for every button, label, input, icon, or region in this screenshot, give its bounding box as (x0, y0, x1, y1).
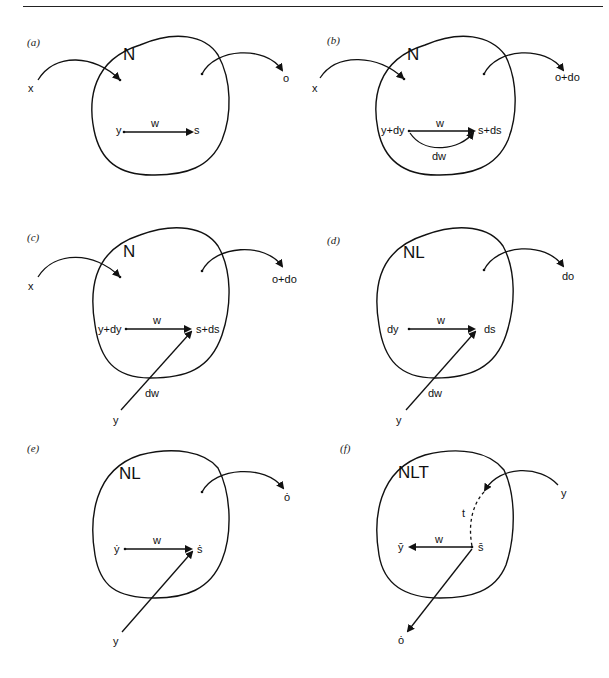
network-name: NL (119, 464, 141, 483)
panel-label: (a) (27, 36, 40, 49)
panel-label: (b) (327, 34, 340, 47)
input-arrow (485, 471, 558, 490)
panel-a: (a) N x o y s w (27, 36, 289, 175)
output-arrow (408, 549, 472, 631)
transpose-path (471, 492, 485, 546)
pre-node-label: dy (387, 323, 399, 335)
post-node-label: ṡ (197, 543, 203, 555)
weight-delta-label: dw (145, 387, 159, 399)
network-boundary (93, 228, 229, 378)
output-label: ȯ (398, 634, 404, 646)
weight-label: w (152, 314, 161, 326)
network-boundary (377, 228, 513, 378)
network-boundary (92, 36, 229, 175)
input-arrow (38, 257, 119, 277)
post-node-label: s̄ (478, 541, 484, 553)
panel-b: (b) N x o+do y+dy s+ds w dw (312, 34, 580, 175)
transpose-label: t (462, 507, 465, 519)
network-name: N (123, 45, 135, 64)
post-node-label: s (194, 124, 200, 136)
input-label: x (312, 82, 318, 94)
panel-e: (e) NL ȯ ẏ ṡ w y (27, 442, 290, 647)
diagram-canvas: (a) N x o y s w (b) N x o+do y+dy s+ds w… (0, 0, 609, 678)
panel-label: (f) (340, 442, 351, 455)
weight-label: w (152, 534, 161, 546)
weight-label: w (434, 533, 443, 545)
output-label: o+do (272, 273, 297, 285)
external-input-arrow (122, 552, 192, 632)
output-label: do (562, 270, 574, 282)
panel-c: (c) N x o+do y+dy s+ds w dw y (27, 228, 297, 426)
output-label: o+do (555, 71, 580, 83)
pre-node-label: y (116, 124, 122, 136)
input-label: y (561, 487, 567, 499)
panel-d: (d) NL do dy ds w dw y (327, 228, 574, 426)
post-node-label: s+ds (478, 124, 502, 136)
output-label: o (283, 72, 289, 84)
input-label: x (28, 82, 34, 94)
output-arrow (484, 249, 563, 270)
output-arrow (202, 250, 282, 271)
input-label: x (28, 280, 34, 292)
network-name: NLT (398, 463, 429, 482)
output-label: ȯ (284, 491, 290, 503)
pre-node-label: ẏ (114, 543, 120, 555)
post-node-label: s+ds (196, 323, 220, 335)
external-input-label: y (396, 414, 402, 426)
panel-label: (c) (27, 231, 40, 244)
pre-node-label: y+dy (98, 323, 122, 335)
network-name: N (123, 242, 135, 261)
weight-delta-arrow (410, 133, 473, 148)
external-input-label: y (113, 635, 119, 647)
network-name: NL (403, 243, 425, 262)
pre-node-label: ȳ (398, 541, 404, 553)
network-boundary (93, 451, 229, 598)
output-arrow (484, 53, 563, 74)
output-arrow (202, 472, 283, 492)
panel-f: (f) NLT y t ȳ s̄ w ȯ (340, 442, 567, 646)
weight-label: w (150, 117, 159, 129)
post-node-label: ds (484, 323, 496, 335)
input-arrow (38, 60, 119, 80)
panel-label: (e) (27, 442, 40, 455)
weight-label: w (436, 314, 445, 326)
output-arrow (202, 53, 282, 74)
weight-delta-label: dw (432, 150, 446, 162)
network-name: N (407, 45, 419, 64)
pre-node-label: y+dy (381, 124, 405, 136)
input-arrow (320, 60, 403, 78)
panel-label: (d) (327, 234, 340, 247)
weight-label: w (435, 117, 444, 129)
external-input-label: y (113, 414, 119, 426)
weight-delta-label: dw (428, 387, 442, 399)
